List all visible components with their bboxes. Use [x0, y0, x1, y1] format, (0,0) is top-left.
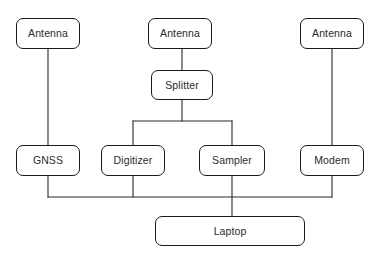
node-label-antenna_left: Antenna [28, 28, 68, 39]
node-label-laptop: Laptop [214, 226, 247, 237]
node-label-antenna_right: Antenna [312, 28, 352, 39]
node-label-sampler: Sampler [212, 155, 252, 166]
node-label-gnss: GNSS [33, 155, 63, 166]
node-antenna_left[interactable]: Antenna [16, 18, 80, 49]
node-gnss[interactable]: GNSS [16, 145, 80, 176]
block-diagram: AntennaAntennaAntennaSplitterGNSSDigitiz… [0, 0, 380, 260]
node-antenna_right[interactable]: Antenna [300, 18, 364, 49]
node-antenna_mid[interactable]: Antenna [148, 18, 212, 49]
node-label-antenna_mid: Antenna [160, 28, 200, 39]
node-modem[interactable]: Modem [300, 145, 364, 176]
node-label-modem: Modem [314, 155, 350, 166]
node-digitizer[interactable]: Digitizer [101, 145, 165, 176]
node-splitter[interactable]: Splitter [151, 70, 213, 100]
node-label-splitter: Splitter [165, 80, 198, 91]
node-laptop[interactable]: Laptop [155, 216, 305, 246]
node-sampler[interactable]: Sampler [199, 145, 265, 176]
node-label-digitizer: Digitizer [114, 155, 153, 166]
